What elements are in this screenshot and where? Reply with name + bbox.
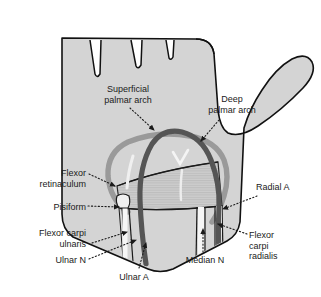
label-superficial-palmar-arch: Superficial palmar arch xyxy=(88,84,168,105)
label-ulnar-n: Ulnar N xyxy=(22,255,86,266)
label-flexor-carpi-radialis: Flexor carpi radialis xyxy=(249,230,309,262)
highlight-center xyxy=(181,170,182,200)
anatomy-figure: Superficial palmar arch Deep palmar arch… xyxy=(0,0,321,297)
pisiform-bone xyxy=(116,194,129,208)
label-median-n: Median N xyxy=(176,255,234,266)
label-radial-a: Radial A xyxy=(256,182,316,193)
fcu-highlight xyxy=(123,208,128,262)
label-flexor-carpi-ulnaris: Flexor carpi ulnaris xyxy=(10,228,86,249)
label-ulnar-a: Ulnar A xyxy=(108,272,160,283)
label-deep-palmar-arch: Deep palmar arch xyxy=(196,94,268,115)
label-pisiform: Pisiform xyxy=(24,202,86,213)
label-flexor-retinaculum: Flexor retinaculum xyxy=(14,168,86,189)
